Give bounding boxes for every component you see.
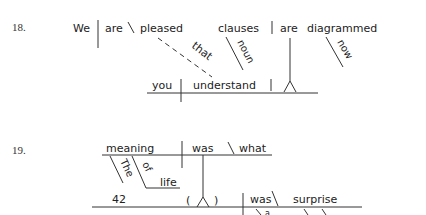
word-subject: We [73,22,90,35]
word-complement: what [239,142,267,155]
word-clause-complement: surprise [293,193,338,206]
word-appositive: 42 [112,193,126,206]
word-complement: pleased [140,22,183,35]
word-subject: meaning [106,142,154,155]
word-verb: was [192,142,214,155]
exercise-number: 19. [12,144,26,156]
modifier-stub [304,209,308,215]
word-sub-subject: you [152,79,172,92]
paren-close: ) [214,194,218,207]
word-noun-clause-verb: are [280,22,298,35]
word-sub-verb: understand [193,79,256,92]
pedestal-icon [284,81,296,92]
complement-slash [228,142,234,154]
modifier-stub [256,209,261,215]
word-noun-clause-subject: clauses [218,22,259,35]
diagram-18: 18. We are pleased that clauses are diag… [12,20,377,102]
word-article-a: a [265,209,270,215]
word-verb: are [105,22,123,35]
diagram-19: 19. meaning was what The of life ( ) 42 … [12,141,362,215]
sentence-diagrams: 18. We are pleased that clauses are diag… [0,0,426,215]
modifier-stub [322,209,326,215]
complement-slash [128,22,134,33]
word-clause-verb: was [250,193,272,206]
clause-complement-slash [272,191,278,206]
paren-open: ( [186,194,190,207]
word-object-of-prep: life [160,176,177,189]
exercise-number: 18. [12,21,26,33]
word-connector: that [189,39,215,63]
word-preposition: of [140,160,154,174]
pedestal-icon [197,197,209,207]
word-modifier-now: now [335,38,355,61]
word-participle: diagrammed [307,22,377,35]
